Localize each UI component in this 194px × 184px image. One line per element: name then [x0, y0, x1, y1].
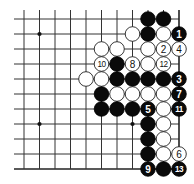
- black-stone-icon: [125, 102, 140, 117]
- black-stone-icon: [156, 72, 171, 87]
- black-stone-icon: [110, 72, 125, 87]
- black-stone-icon: [110, 102, 125, 117]
- white-stone-icon: [156, 132, 171, 147]
- black-stone: [94, 87, 109, 102]
- star-point-icon: [130, 122, 134, 126]
- white-stone-icon: [156, 117, 171, 132]
- white-stone-move-6: 6: [172, 147, 187, 162]
- white-stone: [79, 72, 94, 87]
- black-stone-move-1: 1: [172, 27, 187, 42]
- white-stone-icon: [141, 42, 156, 57]
- black-stone: [141, 27, 156, 42]
- white-stone-icon: [141, 87, 156, 102]
- white-stone-icon: [156, 27, 171, 42]
- move-number-label: 11: [175, 105, 184, 114]
- move-number-label: 2: [161, 44, 167, 55]
- black-stone: [110, 72, 125, 87]
- white-stone-move-10: 10: [94, 57, 109, 72]
- black-stone: [141, 12, 156, 27]
- white-stone-icon: [125, 27, 140, 42]
- white-stone: [156, 102, 171, 117]
- black-stone: [125, 72, 140, 87]
- black-stone-icon: [110, 57, 125, 72]
- black-stone-icon: [156, 12, 171, 27]
- black-stone-icon: [141, 27, 156, 42]
- white-stone: [110, 87, 125, 102]
- white-stone: [156, 147, 171, 162]
- black-stone-icon: [141, 132, 156, 147]
- black-stone-move-3: 3: [172, 72, 187, 87]
- white-stone: [125, 87, 140, 102]
- black-stone-move-9: 9: [141, 162, 156, 177]
- go-board-diagram: 12410812375116913: [0, 0, 194, 184]
- white-stone-move-8: 8: [125, 57, 140, 72]
- move-number-label: 10: [97, 60, 106, 69]
- white-stone: [156, 117, 171, 132]
- white-stone: [156, 87, 171, 102]
- move-number-label: 13: [175, 165, 184, 174]
- black-stone: [141, 147, 156, 162]
- black-stone-move-5: 5: [141, 102, 156, 117]
- white-stone: [156, 27, 171, 42]
- black-stone-move-7: 7: [172, 87, 187, 102]
- move-number-label: 1: [176, 29, 182, 40]
- black-stone-icon: [141, 117, 156, 132]
- move-number-label: 7: [176, 89, 182, 100]
- black-stone-icon: [141, 147, 156, 162]
- white-stone-move-4: 4: [172, 42, 187, 57]
- black-stone: [156, 72, 171, 87]
- white-stone-move-12: 12: [156, 57, 171, 72]
- black-stone-move-11: 11: [172, 102, 187, 117]
- star-point-icon: [37, 32, 41, 36]
- white-stone-icon: [156, 147, 171, 162]
- black-stone: [94, 102, 109, 117]
- white-stone: [141, 42, 156, 57]
- black-stone-icon: [141, 72, 156, 87]
- white-stone-icon: [110, 42, 125, 57]
- move-number-label: 6: [176, 149, 182, 160]
- white-stone-icon: [94, 42, 109, 57]
- black-stone-move-13: 13: [172, 162, 187, 177]
- black-stone-icon: [156, 162, 171, 177]
- move-number-label: 8: [130, 59, 136, 70]
- black-stone-icon: [94, 87, 109, 102]
- black-stone-icon: [141, 12, 156, 27]
- star-point-icon: [37, 122, 41, 126]
- white-stone-icon: [156, 102, 171, 117]
- white-stone-icon: [79, 72, 94, 87]
- black-stone: [156, 162, 171, 177]
- white-stone: [156, 132, 171, 147]
- white-stone: [141, 87, 156, 102]
- move-number-label: 12: [159, 60, 168, 69]
- move-number-label: 9: [145, 164, 151, 175]
- white-stone: [125, 27, 140, 42]
- white-stone-icon: [94, 72, 109, 87]
- black-stone: [141, 117, 156, 132]
- black-stone-icon: [125, 72, 140, 87]
- white-stone: [141, 57, 156, 72]
- white-stone: [110, 42, 125, 57]
- black-stone: [110, 102, 125, 117]
- black-stone-icon: [94, 102, 109, 117]
- move-number-label: 5: [145, 104, 151, 115]
- white-stone-move-2: 2: [156, 42, 171, 57]
- white-stone-icon: [125, 87, 140, 102]
- black-stone: [125, 102, 140, 117]
- move-number-label: 4: [176, 44, 182, 55]
- black-stone: [156, 12, 171, 27]
- black-stone: [110, 57, 125, 72]
- white-stone: [94, 42, 109, 57]
- white-stone-icon: [156, 87, 171, 102]
- black-stone: [141, 132, 156, 147]
- white-stone: [94, 72, 109, 87]
- black-stone: [141, 72, 156, 87]
- white-stone-icon: [110, 87, 125, 102]
- white-stone-icon: [141, 57, 156, 72]
- move-number-label: 3: [176, 74, 182, 85]
